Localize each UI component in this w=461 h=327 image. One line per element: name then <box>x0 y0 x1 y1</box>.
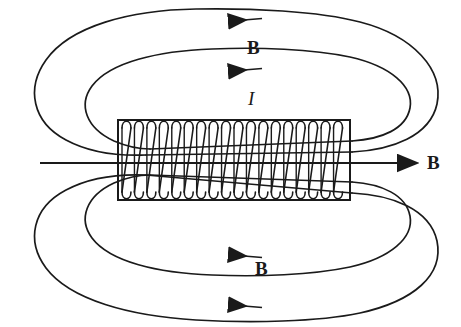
coil-windings <box>122 121 343 199</box>
coil-turn-bottom-arc <box>309 192 318 199</box>
coil-turn-top-arc <box>159 121 168 128</box>
coil-turn-top-arc <box>197 121 206 128</box>
coil-turn-top-arc <box>321 121 330 128</box>
coil-turn-top-arc <box>246 121 255 128</box>
arrowhead-top-outer <box>238 19 262 21</box>
coil-turn-bottom-arc <box>159 192 168 199</box>
solenoid-field-diagram: B I B B <box>0 0 461 327</box>
coil-turn-wire <box>209 128 218 192</box>
coil-turn-bottom-arc <box>234 192 243 199</box>
coil-turn-bottom-arc <box>334 192 343 199</box>
coil-turn-bottom-arc <box>134 192 143 199</box>
coil-turn-top-arc <box>284 121 293 128</box>
arrowhead-top-inner <box>238 69 262 71</box>
coil-turn-wire <box>296 128 305 192</box>
coil-turn-wire <box>197 128 206 192</box>
magnetic-field-drawing <box>0 0 461 327</box>
coil-turn-top-arc <box>209 121 218 128</box>
coil-turn-wire <box>271 128 280 192</box>
coil-turn-bottom-arc <box>271 192 280 199</box>
field-lines-bottom <box>35 175 438 322</box>
coil-turn-top-arc <box>172 121 181 128</box>
coil-turn-bottom-arc <box>209 192 218 199</box>
coil-turn-bottom-arc <box>259 192 268 199</box>
coil-turn-wire <box>134 128 143 192</box>
coil-turn-bottom-arc <box>147 192 156 199</box>
coil-turn-bottom-arc <box>197 192 206 199</box>
coil-turn-wire <box>147 128 156 192</box>
label-b-top: B <box>247 38 260 57</box>
coil-turn-bottom-arc <box>246 192 255 199</box>
coil-turn-top-arc <box>147 121 156 128</box>
coil-turn-top-arc <box>271 121 280 128</box>
coil-turn-top-arc <box>296 121 305 128</box>
coil-turn-wire <box>246 128 255 192</box>
coil-turn-top-arc <box>334 121 343 128</box>
coil-turn-bottom-arc <box>321 192 330 199</box>
coil-turn-wire <box>159 128 168 192</box>
coil-turn-wire <box>184 128 193 192</box>
coil-turn-wire <box>172 128 181 192</box>
coil-turn-bottom-arc <box>222 192 231 199</box>
coil-turn-top-arc <box>134 121 143 128</box>
label-current-i: I <box>248 89 254 108</box>
field-lines-top <box>35 9 438 155</box>
coil-turn-top-arc <box>122 121 131 128</box>
coil-turn-top-arc <box>234 121 243 128</box>
coil-turn-wire <box>284 128 293 192</box>
coil-turn-wire <box>309 128 318 192</box>
coil-turn-bottom-arc <box>284 192 293 199</box>
coil-turn-bottom-arc <box>296 192 305 199</box>
label-b-bottom: B <box>255 259 268 278</box>
arrowhead-bottom-outer <box>238 306 262 308</box>
coil-turn-bottom-arc <box>122 192 131 199</box>
coil-turn-wire <box>122 128 131 192</box>
coil-turn-top-arc <box>309 121 318 128</box>
label-b-right: B <box>427 153 440 172</box>
coil-turn-wire <box>259 128 268 192</box>
coil-turn-bottom-arc <box>172 192 181 199</box>
coil-turn-bottom-arc <box>184 192 193 199</box>
coil-turn-wire <box>321 128 330 192</box>
coil-turn-top-arc <box>222 121 231 128</box>
coil-turn-top-arc <box>259 121 268 128</box>
coil-turn-top-arc <box>184 121 193 128</box>
